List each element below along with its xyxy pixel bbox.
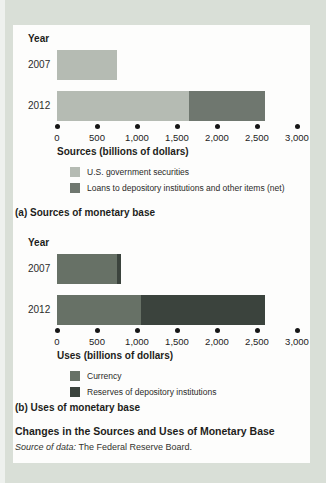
axis-tick-label: 3,000 (275, 336, 319, 347)
axis-tick-label: 1,500 (155, 132, 199, 143)
axis-tick-dot (175, 328, 180, 333)
page-edge (0, 0, 5, 483)
bar-2007 (57, 254, 121, 284)
legend: CurrencyReserves of depository instituti… (70, 370, 216, 402)
legend-label: Reserves of depository institutions (87, 387, 216, 397)
caption-uses: (b) Uses of monetary base (15, 402, 140, 413)
legend-label: U.S. government securities (87, 167, 189, 177)
x-axis-title: Uses (billions of dollars) (57, 350, 173, 361)
figure-panel: Year2007201205001,0001,5002,0002,5003,00… (13, 25, 310, 463)
axis-tick-dot (55, 124, 60, 129)
legend-label: Loans to depository institutions and oth… (87, 183, 285, 193)
legend-swatch (70, 183, 80, 193)
axis-tick-dot (215, 124, 220, 129)
bar-segment (141, 295, 265, 325)
axis-tick-dot (295, 328, 300, 333)
uses-bar-chart: Year2007201205001,0001,5002,0002,5003,00… (13, 237, 310, 402)
bar-2012 (57, 91, 265, 121)
legend-item: U.S. government securities (70, 166, 285, 177)
axis-tick-dot (255, 328, 260, 333)
bar-2007 (57, 50, 117, 80)
caption-sources: (a) Sources of monetary base (15, 207, 155, 218)
legend-swatch (70, 387, 80, 397)
figure-source: Source of data: The Federal Reserve Boar… (15, 442, 192, 452)
legend: U.S. government securitiesLoans to depos… (70, 166, 285, 198)
y-axis-title: Year (28, 237, 49, 248)
axis-tick-label: 0 (35, 336, 79, 347)
category-label: 2007 (28, 59, 50, 70)
bar-segment (57, 91, 189, 121)
sources-bar-chart: Year2007201205001,0001,5002,0002,5003,00… (13, 33, 310, 203)
axis-tick-dot (55, 328, 60, 333)
axis-tick-label: 0 (35, 132, 79, 143)
legend-item: Reserves of depository institutions (70, 386, 216, 397)
axis-tick-dot (95, 328, 100, 333)
axis-tick-label: 1,000 (115, 132, 159, 143)
legend-item: Currency (70, 370, 216, 381)
category-label: 2012 (28, 304, 50, 315)
legend-item: Loans to depository institutions and oth… (70, 182, 285, 193)
bar-segment (189, 91, 265, 121)
axis-tick-dot (295, 124, 300, 129)
legend-swatch (70, 371, 80, 381)
y-axis-title: Year (28, 33, 49, 44)
bar-segment (57, 295, 141, 325)
axis-tick-label: 500 (75, 132, 119, 143)
axis-tick-label: 2,500 (235, 132, 279, 143)
axis-tick-dot (95, 124, 100, 129)
figure-title: Changes in the Sources and Uses of Monet… (15, 425, 275, 437)
axis-tick-dot (255, 124, 260, 129)
source-value: The Federal Reserve Board. (76, 442, 192, 452)
legend-label: Currency (87, 371, 121, 381)
category-label: 2012 (28, 100, 50, 111)
bar-2012 (57, 295, 265, 325)
axis-tick-label: 1,500 (155, 336, 199, 347)
axis-tick-label: 1,000 (115, 336, 159, 347)
axis-tick-dot (175, 124, 180, 129)
bar-segment (117, 254, 121, 284)
axis-tick-label: 2,000 (195, 336, 239, 347)
legend-swatch (70, 167, 80, 177)
source-label: Source of data: (15, 442, 76, 452)
bar-segment (57, 254, 117, 284)
bar-segment (57, 50, 117, 80)
category-label: 2007 (28, 263, 50, 274)
axis-tick-dot (215, 328, 220, 333)
axis-tick-dot (135, 328, 140, 333)
axis-tick-label: 2,500 (235, 336, 279, 347)
axis-tick-label: 2,000 (195, 132, 239, 143)
axis-tick-label: 500 (75, 336, 119, 347)
x-axis-title: Sources (billions of dollars) (57, 146, 189, 157)
axis-tick-dot (135, 124, 140, 129)
axis-tick-label: 3,000 (275, 132, 319, 143)
